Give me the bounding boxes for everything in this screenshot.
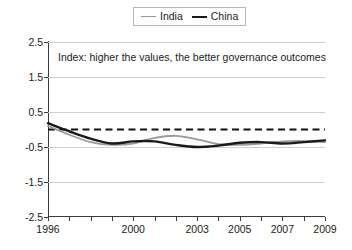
chart-root: India China 2.51.50.5-0.5-1.5-2.5 199620… [0, 0, 352, 250]
x-tick-mark [133, 217, 134, 221]
x-tick-label: 2007 [271, 223, 294, 235]
x-tick-mark [325, 217, 326, 221]
legend-label-india: India [160, 11, 183, 22]
y-tick-label: 1.5 [28, 71, 43, 83]
x-tick-mark [112, 217, 113, 221]
x-tick-mark [261, 217, 262, 221]
y-tick-label: -0.5 [25, 141, 43, 153]
plot-area: 2.51.50.5-0.5-1.5-2.5 199620002003200520… [48, 42, 325, 217]
x-tick-mark [48, 217, 49, 221]
x-tick-mark [304, 217, 305, 221]
line-swatch-icon [141, 16, 156, 17]
chart-legend: India China [133, 7, 246, 26]
x-tick-label: 2005 [228, 223, 251, 235]
x-tick-mark [218, 217, 219, 221]
legend-entry-china: China [192, 11, 238, 22]
x-tick-mark [155, 217, 156, 221]
series-line-china [48, 123, 325, 147]
legend-entry-india: India [141, 11, 183, 22]
legend-label-china: China [211, 11, 238, 22]
x-tick-label: 2003 [185, 223, 208, 235]
y-tick-label: -2.5 [25, 211, 43, 223]
x-tick-mark [240, 217, 241, 221]
x-tick-mark [91, 217, 92, 221]
x-tick-mark [197, 217, 198, 221]
y-tick-label: -1.5 [25, 176, 43, 188]
x-tick-mark [176, 217, 177, 221]
series-plot [48, 42, 325, 217]
x-tick-mark [282, 217, 283, 221]
line-swatch-icon [192, 16, 207, 18]
x-tick-label: 2009 [313, 223, 336, 235]
x-tick-mark [69, 217, 70, 221]
x-tick-label: 1996 [36, 223, 59, 235]
y-tick-label: 2.5 [28, 36, 43, 48]
y-tick-label: 0.5 [28, 106, 43, 118]
x-tick-label: 2000 [122, 223, 145, 235]
